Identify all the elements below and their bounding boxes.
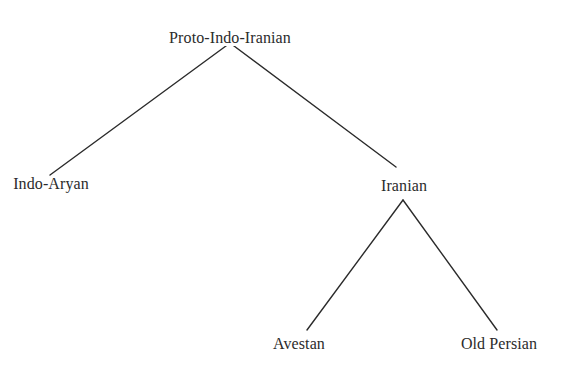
node-label-proto-indo-iranian: Proto-Indo-Iranian — [167, 30, 293, 46]
node-label-avestan: Avestan — [271, 336, 327, 352]
edge-iranian-to-old-persian — [403, 200, 497, 330]
node-label-iranian: Iranian — [379, 178, 429, 194]
edge-iranian-to-avestan — [307, 200, 403, 330]
edge-proto-to-indo-aryan — [50, 43, 230, 175]
edges-group — [50, 43, 497, 330]
edge-proto-to-iranian — [230, 43, 396, 167]
node-label-indo-aryan: Indo-Aryan — [11, 176, 91, 192]
node-label-old-persian: Old Persian — [459, 336, 539, 352]
language-family-tree-diagram: Proto-Indo-Iranian Indo-Aryan Iranian Av… — [0, 0, 564, 367]
